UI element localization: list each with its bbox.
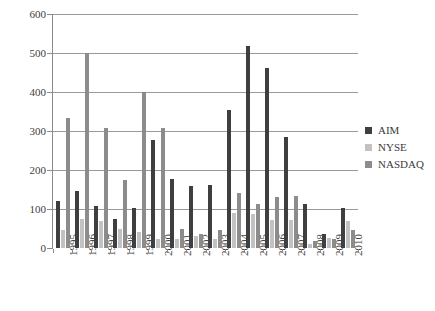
y-tick-mark — [47, 131, 52, 132]
plot-area — [53, 14, 358, 248]
y-tick-mark — [47, 92, 52, 93]
x-tick-mark — [129, 249, 130, 253]
gridline — [53, 14, 358, 15]
legend: AIM NYSE NASDAQ — [365, 122, 424, 173]
x-tick-mark — [320, 249, 321, 253]
legend-swatch-icon-aim — [365, 127, 372, 134]
gridline — [53, 170, 358, 171]
x-tick-mark — [282, 249, 283, 253]
y-tick-mark — [47, 209, 52, 210]
x-tick-mark — [148, 249, 149, 253]
bar-nyse-2006 — [270, 220, 274, 248]
x-tick-mark — [110, 249, 111, 253]
bar-nyse-1999 — [137, 232, 141, 248]
bar-nyse-2002 — [194, 236, 198, 248]
bar-nyse-2004 — [232, 213, 236, 248]
bar-nyse-2010 — [346, 221, 350, 248]
gridline — [53, 92, 358, 93]
bar-nyse-1996 — [80, 219, 84, 248]
x-tick-mark — [206, 249, 207, 253]
y-tick-mark — [47, 170, 52, 171]
y-tick-label: 600 — [30, 9, 47, 20]
bar-nyse-2005 — [251, 214, 255, 248]
bar-aim-2005 — [246, 46, 250, 248]
bar-nyse-1995 — [61, 230, 65, 248]
bar-aim-2004 — [227, 110, 231, 248]
x-tick-mark — [263, 249, 264, 253]
y-tick-mark — [47, 14, 52, 15]
x-tick-mark — [358, 249, 359, 253]
x-tick-mark — [72, 249, 73, 253]
y-tick-label: 400 — [30, 87, 47, 98]
legend-label-aim: AIM — [378, 125, 399, 136]
y-tick-mark — [47, 53, 52, 54]
legend-label-nasdaq: NASDAQ — [378, 159, 424, 170]
bar-aim-2006 — [265, 68, 269, 248]
bar-nyse-2000 — [156, 239, 160, 248]
bar-nyse-2009 — [327, 238, 331, 248]
bar-nyse-1998 — [118, 229, 122, 248]
gridline — [53, 131, 358, 132]
x-tick-mark — [339, 249, 340, 253]
bar-nasdaq-1997 — [104, 128, 108, 248]
x-tick-mark — [225, 249, 226, 253]
y-tick-label: 200 — [30, 165, 47, 176]
x-tick-mark — [53, 249, 54, 253]
bar-nyse-1997 — [99, 221, 103, 248]
bar-nyse-2007 — [289, 220, 293, 248]
x-tick-mark — [167, 249, 168, 253]
gridline — [53, 209, 358, 210]
bar-aim-2000 — [151, 140, 155, 248]
bar-aim-2007 — [284, 137, 288, 248]
x-tick-mark — [91, 249, 92, 253]
y-tick-label: 0 — [41, 243, 47, 254]
bar-nyse-2008 — [308, 244, 312, 248]
x-tick-mark — [301, 249, 302, 253]
bar-aim-1995 — [56, 201, 60, 248]
x-tick-mark — [244, 249, 245, 253]
y-tick-label: 300 — [30, 126, 47, 137]
y-tick-label: 100 — [30, 204, 47, 215]
x-tick-mark — [186, 249, 187, 253]
bar-nasdaq-1995 — [66, 118, 70, 248]
legend-item-nasdaq: NASDAQ — [365, 156, 424, 173]
legend-swatch-icon-nasdaq — [365, 161, 372, 168]
legend-item-aim: AIM — [365, 122, 424, 139]
bar-nasdaq-1996 — [85, 53, 89, 248]
gridline — [53, 53, 358, 54]
bar-nasdaq-2000 — [161, 128, 165, 248]
y-tick-label: 500 — [30, 48, 47, 59]
legend-swatch-icon-nyse — [365, 144, 372, 151]
legend-label-nyse: NYSE — [378, 142, 407, 153]
bar-chart: 0100200300400500600 19951996199719981999… — [0, 0, 435, 311]
bar-nasdaq-1999 — [142, 92, 146, 248]
bar-nyse-2003 — [213, 239, 217, 248]
y-tick-mark — [47, 248, 52, 249]
bar-nyse-2001 — [175, 239, 179, 248]
legend-item-nyse: NYSE — [365, 139, 424, 156]
